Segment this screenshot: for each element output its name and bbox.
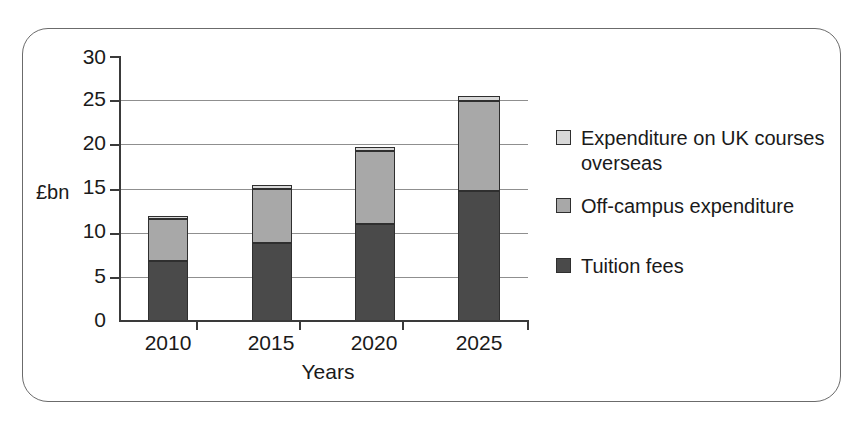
y-tick-label-10: 10 [62, 220, 106, 241]
x-tick-mark-1 [196, 321, 198, 330]
x-tick-label-2020: 2020 [329, 331, 419, 355]
y-tick-0: 0 [56, 309, 106, 330]
bar-segment[interactable] [148, 219, 188, 261]
x-tick-label-2010: 2010 [123, 331, 213, 355]
y-axis-line [119, 56, 121, 322]
bar-stack-2015[interactable] [252, 185, 292, 321]
bar-segment[interactable] [355, 224, 395, 321]
legend-swatch-tuition-fees [556, 258, 571, 273]
x-axis-title: Years [238, 360, 418, 384]
y-tick-30: 30 [56, 46, 106, 67]
legend-swatch-overseas [556, 130, 571, 145]
y-tick-10: 10 [56, 220, 106, 241]
bar-stack-2010[interactable] [148, 216, 188, 321]
bar-stack-2025[interactable] [458, 96, 500, 321]
legend-label-off-campus: Off-campus expenditure [581, 194, 794, 219]
legend-label-overseas: Expenditure on UK courses overseas [581, 126, 833, 176]
bar-segment[interactable] [148, 216, 188, 220]
bar-segment[interactable] [252, 189, 292, 244]
x-tick-label-2015: 2015 [226, 331, 316, 355]
bar-segment[interactable] [458, 96, 500, 101]
y-tick-label-30: 30 [62, 46, 106, 67]
legend-item-tuition-fees[interactable]: Tuition fees [556, 254, 684, 279]
y-tick-25: 25 [56, 88, 106, 109]
y-tick-15: 15 [56, 176, 106, 197]
x-tick-mark-3 [402, 321, 404, 330]
legend-item-overseas[interactable]: Expenditure on UK courses overseas [556, 126, 833, 176]
y-tick-label-15: 15 [62, 176, 106, 197]
x-tick-mark-2 [299, 321, 301, 330]
bar-stack-2020[interactable] [355, 147, 395, 321]
y-tick-label-20: 20 [62, 132, 106, 153]
y-tick-20: 20 [56, 132, 106, 153]
x-tick-mark-4 [527, 321, 529, 330]
x-axis-line [119, 320, 529, 322]
legend-item-off-campus[interactable]: Off-campus expenditure [556, 194, 794, 219]
stacked-bar-chart: £bn 30 25 20 15 10 5 0 20 [0, 0, 860, 426]
bar-segment[interactable] [458, 101, 500, 191]
bar-segment[interactable] [252, 243, 292, 321]
y-tick-label-25: 25 [62, 88, 106, 109]
plot-area [120, 56, 528, 321]
bar-segment[interactable] [355, 151, 395, 223]
y-tick-5: 5 [56, 265, 106, 286]
bar-segment[interactable] [252, 185, 292, 188]
bar-segment[interactable] [355, 147, 395, 151]
y-tick-label-5: 5 [62, 265, 106, 286]
bar-segment[interactable] [148, 261, 188, 321]
x-tick-label-2025: 2025 [434, 331, 524, 355]
legend-swatch-off-campus [556, 198, 571, 213]
y-tick-label-0: 0 [62, 309, 106, 330]
legend-label-tuition-fees: Tuition fees [581, 254, 684, 279]
bar-segment[interactable] [458, 191, 500, 321]
